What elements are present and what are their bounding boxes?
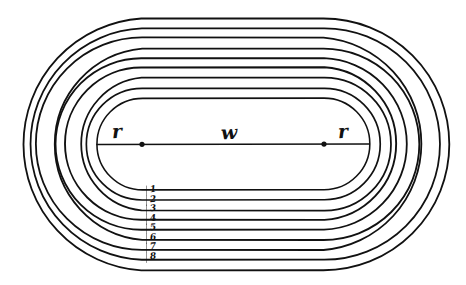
lane-number-7: 7 <box>150 242 157 252</box>
lane-number-1: 1 <box>150 185 157 195</box>
left-center-dot <box>139 142 144 147</box>
lane-number-3: 3 <box>150 204 157 214</box>
radius-label-right: r <box>338 122 349 141</box>
right-center-dot <box>321 142 326 147</box>
lane-number-8: 8 <box>150 252 157 262</box>
track-diagram-figure: r w r 12345678 <box>0 0 466 285</box>
radius-label-left: r <box>112 122 123 141</box>
width-label-center: w <box>221 123 238 143</box>
lane-number-5: 5 <box>150 223 157 233</box>
